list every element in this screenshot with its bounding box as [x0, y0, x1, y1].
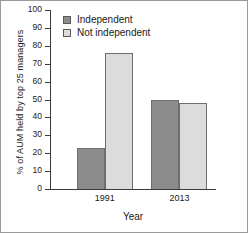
bar [179, 103, 207, 189]
chart-legend: Independent Not independent [63, 13, 150, 39]
x-axis-title: Year [50, 211, 216, 222]
x-axis-tick-label: 1991 [77, 193, 133, 203]
y-axis-tick: 70 [45, 64, 50, 65]
x-axis-tick-label: 2013 [151, 193, 207, 203]
y-axis-tick: 40 [45, 117, 50, 118]
legend-item-label: Independent [77, 14, 133, 25]
y-axis-tick-label: 40 [33, 111, 42, 121]
y-axis-tick-label: 70 [33, 58, 42, 68]
y-axis-tick-label: 50 [33, 94, 42, 104]
y-axis-tick: 90 [45, 28, 50, 29]
y-axis-tick-label: 10 [33, 165, 42, 175]
y-axis-tick-label: 90 [33, 22, 42, 32]
plot-area: 0102030405060708090100 19912013 Independ… [50, 10, 216, 190]
legend-swatch-icon [63, 29, 71, 37]
legend-swatch-icon [63, 16, 71, 24]
bar-group: 2013 [151, 100, 207, 190]
y-axis-tick-label: 20 [33, 147, 42, 157]
y-axis-tick: 0 [45, 189, 50, 190]
y-axis-tick-label: 80 [33, 40, 42, 50]
y-axis-tick-label: 30 [33, 129, 42, 139]
y-axis-tick: 60 [45, 82, 50, 83]
bar [151, 100, 179, 190]
legend-item-label: Not independent [77, 27, 150, 38]
y-axis-tick-label: 100 [28, 4, 42, 14]
y-axis-tick: 30 [45, 135, 50, 136]
y-axis-tick-label: 60 [33, 76, 42, 86]
bar [77, 148, 105, 189]
y-axis-tick: 20 [45, 153, 50, 154]
y-axis-title: % of AUM held by top 25 managers [15, 7, 25, 197]
legend-item-not-independent: Not independent [63, 26, 150, 39]
y-axis-tick: 50 [45, 100, 50, 101]
bar-group: 1991 [77, 53, 133, 189]
y-axis-tick-label: 0 [37, 183, 42, 193]
bar-chart-figure: % of AUM held by top 25 managers 0102030… [0, 0, 248, 233]
y-axis-tick: 100 [45, 10, 50, 11]
y-axis-tick: 10 [45, 171, 50, 172]
bar [105, 53, 133, 189]
y-axis-tick: 80 [45, 46, 50, 47]
legend-item-independent: Independent [63, 13, 150, 26]
